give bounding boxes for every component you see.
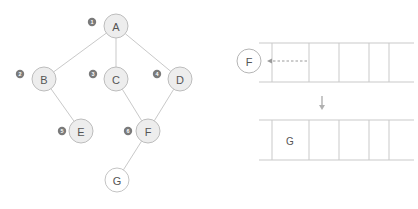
graph-panel: ABCDEFG 123456 — [0, 0, 209, 209]
stack-diagram: G F — [209, 0, 418, 209]
visit-order-badge-D: 4 — [153, 70, 161, 78]
stack-panel: G F — [209, 0, 418, 209]
graph-edge-B-E — [51, 89, 74, 121]
node-label-E: E — [77, 126, 84, 138]
node-label-D: D — [176, 74, 184, 86]
stack-row-before — [259, 43, 414, 82]
popped-node: F — [237, 49, 261, 73]
graph-nodes-layer: ABCDEFG — [32, 14, 192, 192]
visit-order-badge-E: 5 — [58, 127, 66, 135]
graph-node-C[interactable]: C — [104, 67, 128, 91]
graph-edge-F-G — [123, 141, 141, 170]
graph-node-G[interactable]: G — [105, 168, 129, 192]
badge-text-F: 6 — [126, 128, 129, 134]
node-label-C: C — [112, 74, 120, 86]
diagram-screenshot: ABCDEFG 123456 G F — [0, 0, 418, 209]
graph-node-B[interactable]: B — [32, 67, 56, 91]
transition-arrow-head — [319, 105, 325, 110]
graph-node-E[interactable]: E — [69, 119, 93, 143]
visit-order-badge-A: 1 — [88, 18, 96, 26]
visit-order-badge-F: 6 — [124, 127, 132, 135]
visit-order-badge-C: 3 — [89, 70, 97, 78]
node-label-G: G — [113, 175, 122, 187]
graph-edge-D-F — [154, 89, 173, 121]
badge-text-E: 5 — [60, 128, 63, 134]
badge-text-C: 3 — [91, 71, 94, 77]
graph-edge-C-F — [122, 89, 141, 121]
node-label-F: F — [145, 126, 152, 138]
badge-text-B: 2 — [18, 71, 21, 77]
node-label-A: A — [112, 21, 120, 33]
stack-arrows-layer — [267, 58, 325, 110]
pop-arrow-head — [267, 58, 272, 63]
graph-node-D[interactable]: D — [168, 67, 192, 91]
node-label-B: B — [40, 74, 47, 86]
graph-node-F[interactable]: F — [136, 119, 160, 143]
popped-node-label: F — [246, 56, 253, 68]
graph-node-A[interactable]: A — [104, 14, 128, 38]
visit-order-badge-B: 2 — [16, 70, 24, 78]
graph-edge-A-D — [125, 34, 171, 72]
stack-after-cell-label-0: G — [286, 136, 294, 147]
badge-text-A: 1 — [90, 19, 93, 25]
graph-edges-layer — [51, 33, 174, 170]
graph-edge-A-B — [54, 33, 107, 72]
stack-row-after: G — [259, 120, 414, 160]
